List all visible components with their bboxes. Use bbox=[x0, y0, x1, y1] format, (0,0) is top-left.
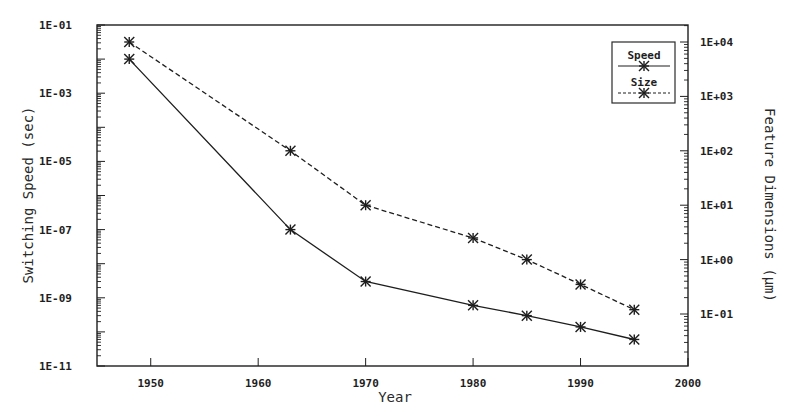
y-left-tick-label: 1E-11 bbox=[39, 360, 72, 373]
legend-label-size: Size bbox=[631, 76, 658, 89]
chart: 195019601970198019902000 1E-011E-031E-05… bbox=[0, 0, 791, 420]
data-point-size bbox=[124, 37, 134, 47]
y-left-tick-label: 1E-03 bbox=[39, 87, 72, 100]
y-axis-right-title: Feature Dimensions (µm) bbox=[762, 108, 778, 302]
series-line-speed bbox=[129, 59, 634, 339]
data-point-size bbox=[629, 305, 639, 315]
y-right-tick-label: 1E+00 bbox=[700, 254, 733, 267]
data-point-speed bbox=[629, 334, 639, 344]
x-tick-label: 1990 bbox=[567, 377, 594, 390]
data-point-speed bbox=[522, 311, 532, 321]
x-tick-label: 1950 bbox=[137, 377, 164, 390]
series-line-size bbox=[129, 42, 634, 310]
y-right-tick-label: 1E+03 bbox=[700, 90, 733, 103]
y-right-tick-label: 1E-01 bbox=[700, 308, 733, 321]
asterisk-icon bbox=[639, 88, 649, 98]
y-left-tick-label: 1E-05 bbox=[39, 155, 72, 168]
data-point-speed bbox=[576, 322, 586, 332]
asterisk-icon bbox=[639, 61, 649, 71]
x-axis: 195019601970198019902000 bbox=[137, 358, 701, 390]
plot-frame bbox=[97, 25, 688, 366]
y-axis-left-title: Switching Speed (sec) bbox=[20, 106, 36, 283]
data-point-speed bbox=[124, 54, 134, 64]
data-point-size bbox=[361, 200, 371, 210]
y-right-tick-label: 1E+01 bbox=[700, 199, 733, 212]
x-tick-label: 1970 bbox=[352, 377, 379, 390]
series-layer bbox=[124, 37, 639, 344]
data-point-speed bbox=[285, 225, 295, 235]
y-axis-left: 1E-011E-031E-051E-071E-091E-11 bbox=[39, 19, 105, 373]
y-left-tick-label: 1E-09 bbox=[39, 292, 72, 305]
y-left-tick-label: 1E-07 bbox=[39, 224, 72, 237]
legend-marker-size-icon bbox=[639, 88, 649, 98]
y-left-tick-label: 1E-01 bbox=[39, 19, 72, 32]
data-point-size bbox=[576, 279, 586, 289]
x-tick-label: 2000 bbox=[675, 377, 702, 390]
legend: Speed Size bbox=[612, 42, 675, 103]
x-tick-label: 1980 bbox=[460, 377, 487, 390]
plot-border bbox=[97, 25, 688, 366]
x-axis-title: Year bbox=[378, 389, 412, 405]
y-right-tick-label: 1E+04 bbox=[700, 36, 733, 49]
legend-label-speed: Speed bbox=[627, 49, 660, 62]
data-point-speed bbox=[361, 277, 371, 287]
data-point-size bbox=[522, 255, 532, 265]
data-point-size bbox=[285, 146, 295, 156]
data-point-speed bbox=[468, 300, 478, 310]
data-point-size bbox=[468, 233, 478, 243]
y-right-tick-label: 1E+02 bbox=[700, 145, 733, 158]
legend-marker-speed-icon bbox=[639, 61, 649, 71]
x-tick-label: 1960 bbox=[245, 377, 272, 390]
